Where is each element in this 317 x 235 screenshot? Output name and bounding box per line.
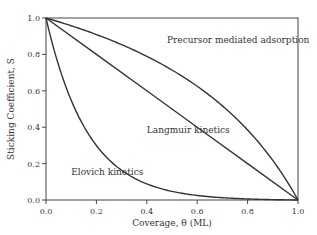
chart-container: 0.00.20.40.60.81.00.00.20.40.60.81.0Cove… <box>0 0 317 235</box>
y-tick-label: 0.0 <box>27 196 40 205</box>
annotation-label: Elovich kinetics <box>71 167 144 177</box>
x-tick-label: 0.2 <box>90 207 103 216</box>
x-tick-label: 1.0 <box>292 207 305 216</box>
sticking-coefficient-chart: 0.00.20.40.60.81.00.00.20.40.60.81.0Cove… <box>0 0 317 235</box>
x-tick-label: 0.8 <box>241 207 254 216</box>
y-tick-label: 0.4 <box>27 123 40 132</box>
y-tick-label: 1.0 <box>27 14 40 23</box>
y-tick-label: 0.8 <box>27 50 40 59</box>
x-tick-label: 0.4 <box>140 207 153 216</box>
annotation-label: Precursor mediated adsorption <box>167 35 310 45</box>
y-tick-label: 0.6 <box>27 87 40 96</box>
annotation-label: Langmuir kinetics <box>147 125 230 135</box>
x-tick-label: 0.0 <box>40 207 53 216</box>
y-tick-label: 0.2 <box>27 160 40 169</box>
x-axis-label: Coverage, θ (ML) <box>132 218 212 228</box>
y-axis-label: Sticking Coefficient, S <box>6 58 16 160</box>
x-tick-label: 0.6 <box>191 207 204 216</box>
